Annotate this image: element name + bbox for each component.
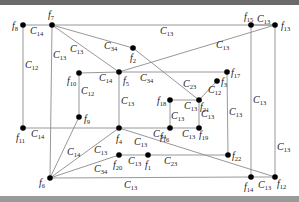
edge-f20-f6: [50, 155, 119, 178]
node-label-f1: f1: [145, 159, 151, 171]
node-label-f6: f6: [39, 177, 46, 189]
node-f11: [20, 125, 26, 131]
node-label-f18: f18: [157, 95, 166, 107]
edge-label-f20-f1: C13: [128, 155, 141, 167]
node-f1: [145, 152, 151, 158]
edge-label-f5-f4: C13: [121, 95, 134, 107]
node-label-f5: f5: [123, 75, 129, 87]
edge-label-f7-f21: C13: [70, 43, 83, 55]
node-f15: [248, 22, 254, 28]
edge-f4-f6: [50, 128, 119, 178]
edge-label-f8-f11: C12: [25, 59, 38, 71]
node-f16: [167, 125, 173, 131]
edge-f9-f6: [50, 117, 79, 178]
node-label-f20: f20: [113, 159, 122, 171]
edge-label-f17-f22: C13: [229, 106, 242, 118]
edge-label-f18-f16: C13: [171, 110, 184, 122]
bottom-border: [0, 196, 299, 202]
edge-f4-f12: [119, 128, 275, 177]
node-f22: [225, 152, 231, 158]
node-label-f9: f9: [84, 113, 90, 125]
node-label-f10: f10: [67, 75, 76, 87]
edge-label-f10-f5: C14: [99, 72, 113, 84]
node-f20: [116, 152, 122, 158]
edge-label-f18-f21: C13: [184, 100, 197, 112]
node-label-f15: f15: [244, 11, 253, 23]
edge-label-f21-f3: C12: [208, 84, 221, 96]
edge-f7-f2: [52, 25, 133, 48]
edge-f6-f14: [50, 177, 251, 178]
edge-label-f7-f21: C23: [183, 78, 196, 90]
edge-label-f8-f7: C14: [30, 25, 44, 37]
edge-label-f6-f14: C13: [124, 179, 137, 191]
edge-label-f13-f12: C13: [277, 141, 290, 153]
edge-label-f7-f6: C13: [53, 49, 66, 61]
node-f3: [214, 78, 220, 84]
edge-label-f9-f6: C14: [67, 146, 81, 158]
edge-label-f10-f9: C12: [81, 85, 94, 97]
node-label-f14: f14: [244, 181, 254, 193]
node-f9: [76, 114, 82, 120]
node-f7: [49, 22, 55, 28]
node-f18: [167, 97, 173, 103]
edge-label-f5-f17: C34: [140, 72, 154, 84]
edge-label-f20-f6: C34: [94, 163, 108, 175]
node-f2: [130, 45, 136, 51]
edge-f7-f6: [50, 25, 52, 178]
edge-label-f4-f12: C13: [134, 136, 147, 148]
node-label-f22: f22: [232, 150, 241, 162]
edge-label-f21-f19: C13: [201, 108, 214, 120]
edge-label-f5-f13: C13: [216, 39, 229, 51]
node-label-f2: f2: [130, 52, 136, 64]
node-label-f11: f11: [16, 132, 25, 144]
node-f17: [224, 69, 230, 75]
node-label-f4: f4: [116, 133, 123, 145]
node-f8: [20, 22, 26, 28]
graph-diagram: f1f2f3f4f5f6f7f8f9f10f11f12f13f14f15f16f…: [0, 0, 299, 202]
node-label-f12: f12: [277, 178, 286, 190]
node-f13: [272, 22, 278, 28]
edge-label-f4-f6: C13: [94, 144, 107, 156]
edge-label-f7-f13: C13: [160, 25, 173, 37]
node-f6: [47, 175, 53, 181]
node-label-f7: f7: [48, 9, 55, 21]
node-label-f19: f19: [199, 129, 208, 141]
labels-layer: f1f2f3f4f5f6f7f8f9f10f11f12f13f14f15f16f…: [12, 9, 290, 193]
edge-label-f16-f19: C13: [182, 128, 195, 140]
node-label-f17: f17: [231, 67, 241, 79]
edge-label-f15-f13: C13: [257, 13, 270, 25]
node-f10: [76, 70, 82, 76]
edge-label-f14-f12: C13: [258, 179, 271, 191]
edge-label-f1-f22: C23: [164, 155, 177, 167]
edge-label-f11-f4: C14: [31, 128, 45, 140]
edge-f17-f22: [227, 72, 228, 155]
node-label-f8: f8: [12, 20, 18, 32]
node-label-f3: f3: [221, 76, 227, 88]
node-f5: [116, 69, 122, 75]
node-f14: [248, 174, 254, 180]
edge-label-f4-f16: C34: [153, 128, 167, 140]
edge-label-f15-f14: C13: [253, 94, 266, 106]
node-label-f13: f13: [281, 20, 290, 32]
edge-f5-f13: [119, 25, 275, 72]
node-f4: [116, 125, 122, 131]
